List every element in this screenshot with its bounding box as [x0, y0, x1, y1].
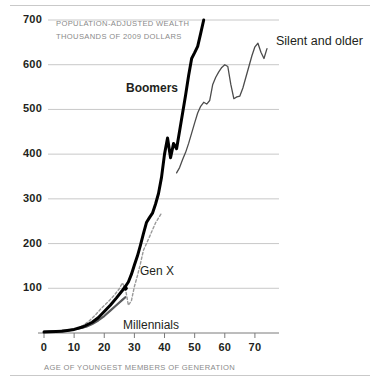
- series-label-boomers: Boomers: [126, 81, 178, 95]
- y-tick-label: 700: [12, 13, 42, 25]
- chart-figure: 100200300400500600700 010203040506070 PO…: [0, 0, 380, 386]
- unit-note-line-2: THOUSANDS OF 2009 DOLLARS: [56, 32, 182, 41]
- series-label-gen-x: Gen X: [140, 264, 174, 278]
- x-tick-label: 60: [213, 341, 237, 353]
- x-tick-label: 40: [153, 341, 177, 353]
- unit-note-line-1: POPULATION-ADJUSTED WEALTH: [56, 19, 189, 28]
- series-markers-group: [123, 286, 128, 291]
- x-tick-label: 0: [32, 341, 56, 353]
- x-tick-label: 10: [62, 341, 86, 353]
- chart-plot-area: [0, 0, 380, 386]
- y-tick-label: 200: [12, 237, 42, 249]
- x-tick-label: 30: [122, 341, 146, 353]
- x-axis-group: [38, 333, 279, 338]
- series-label-silent-and-older: Silent and older: [276, 34, 363, 48]
- y-tick-label: 400: [12, 147, 42, 159]
- line-chart-svg: [0, 0, 380, 386]
- x-axis-caption: AGE OF YOUNGEST MEMBERS OF GENERATION: [44, 363, 235, 372]
- x-tick-label: 20: [92, 341, 116, 353]
- x-tick-label: 70: [243, 341, 267, 353]
- y-tick-label: 100: [12, 281, 42, 293]
- genx-100k-marker: [123, 286, 128, 291]
- y-tick-label: 600: [12, 58, 42, 70]
- y-tick-label: 500: [12, 102, 42, 114]
- y-tick-label: 300: [12, 192, 42, 204]
- x-tick-label: 50: [183, 341, 207, 353]
- series-label-millennials: Millennials: [123, 318, 179, 332]
- series-lines-group: [44, 20, 267, 332]
